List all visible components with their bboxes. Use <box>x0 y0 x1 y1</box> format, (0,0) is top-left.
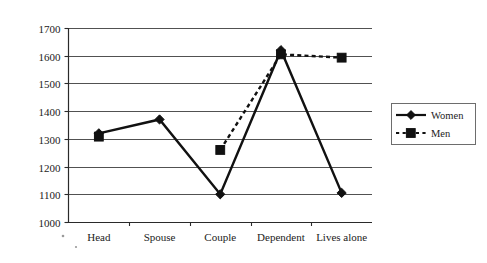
y-tick-label-1500: 1500 <box>39 78 62 90</box>
scan-speck-bottom <box>75 246 77 248</box>
y-tick-label-1700: 1700 <box>39 23 62 35</box>
y-tick-label-1600: 1600 <box>39 51 62 63</box>
line-chart: 10001100120013001400150016001700 HeadSpo… <box>0 0 487 263</box>
x-category-label-couple: Couple <box>204 231 236 243</box>
legend-swatch-men-marker <box>406 129 415 138</box>
data-point-men-dependent <box>277 50 286 59</box>
x-category-label-spouse: Spouse <box>144 231 176 243</box>
chart-legend: Women Men <box>392 104 476 145</box>
x-category-label-lives-alone: Lives alone <box>316 231 367 243</box>
y-tick-label-1200: 1200 <box>39 162 62 174</box>
legend-label-women: Women <box>431 110 464 121</box>
x-category-label-dependent: Dependent <box>257 231 305 243</box>
data-point-men-couple <box>216 146 225 155</box>
legend-label-men: Men <box>431 128 451 139</box>
data-point-men-head <box>94 132 103 141</box>
x-category-label-head: Head <box>87 231 111 243</box>
y-tick-label-1100: 1100 <box>39 189 61 201</box>
scan-speck-left <box>62 235 65 238</box>
y-tick-label-1000: 1000 <box>39 217 62 229</box>
y-tick-label-1400: 1400 <box>39 106 62 118</box>
chart-canvas: 10001100120013001400150016001700 HeadSpo… <box>0 0 487 263</box>
y-tick-label-1300: 1300 <box>39 134 62 146</box>
data-point-men-lives-alone <box>337 53 346 62</box>
